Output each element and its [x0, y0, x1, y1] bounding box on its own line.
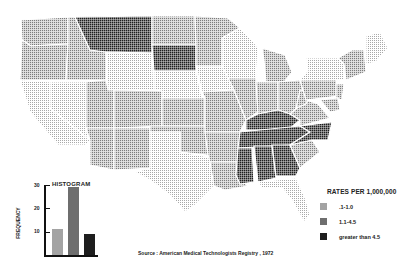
legend: RATES PER 1,000,000 .1-1.0 1.1-4.5 great… [320, 188, 413, 240]
legend-item-low: .1-1.0 [320, 203, 413, 210]
state-oregon [20, 40, 68, 80]
state-arkansas [205, 132, 240, 162]
state-colorado [114, 90, 162, 128]
legend-label: 1.1-4.5 [339, 219, 356, 225]
histogram-bar-mid [68, 187, 79, 255]
legend-title: RATES PER 1,000,000 [327, 188, 413, 195]
legend-item-mid: 1.1-4.5 [320, 218, 413, 225]
ytick-mark [46, 185, 50, 186]
source-caption: Source : American Medical Technologists … [138, 250, 273, 256]
state-michigan [262, 48, 292, 82]
state-arizona [86, 128, 114, 170]
ytick-30: 30 [34, 182, 40, 188]
state-maine [366, 32, 388, 64]
histogram-bar-high [84, 234, 95, 255]
state-north-dakota [152, 16, 196, 45]
histogram-ylabel: FREQUENCY [15, 203, 21, 243]
state-indiana [256, 82, 278, 114]
state-wyoming [106, 52, 154, 90]
state-florida [258, 178, 310, 222]
legend-swatch-low [320, 203, 327, 210]
state-new-york [300, 58, 346, 80]
state-kansas [162, 98, 205, 126]
legend-swatch-high [320, 233, 327, 240]
state-new-mexico [114, 128, 150, 170]
state-washington [21, 17, 68, 46]
state-mississippi [236, 148, 254, 184]
legend-label: .1-1.0 [339, 204, 353, 210]
histogram-x-axis [44, 255, 98, 257]
ytick-mark [46, 232, 50, 233]
legend-item-high: greater than 4.5 [320, 233, 413, 240]
ytick-10: 10 [34, 228, 40, 234]
state-pennsylvania [300, 78, 338, 100]
ytick-20: 20 [34, 205, 40, 211]
state-wisconsin [222, 28, 258, 78]
legend-label: greater than 4.5 [339, 234, 380, 240]
ytick-mark [46, 208, 50, 209]
histogram-y-axis [44, 185, 46, 256]
legend-swatch-mid [320, 218, 327, 225]
histogram: HISTOGRAM FREQUENCY 30 20 10 [0, 170, 130, 273]
histogram-bar-low [52, 229, 63, 255]
state-south-dakota [152, 45, 196, 71]
